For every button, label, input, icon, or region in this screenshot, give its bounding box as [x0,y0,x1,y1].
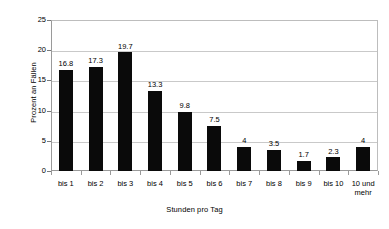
y-tick-label: 0 [22,167,46,175]
x-tick-label: bis 9 [289,180,319,189]
bar-slot: 19.7 [110,20,140,171]
bar [89,67,103,171]
x-axis-title: Stunden pro Tag [0,205,389,214]
y-tick-label: 25 [22,16,46,24]
x-tick-label: bis 10 [319,180,349,189]
x-tick-label: 10 und mehr [348,180,378,197]
bar-value-label: 7.5 [209,116,219,124]
bar-slot: 13.3 [140,20,170,171]
x-tick-mark [170,171,171,175]
bar-slot: 4 [348,20,378,171]
bar-value-label: 17.3 [88,57,103,65]
bar-slot: 3.5 [259,20,289,171]
bar [178,112,192,171]
bars-layer: 16.817.319.713.39.87.543.51.72.34 [51,20,378,171]
bar-value-label: 1.7 [298,151,308,159]
y-tick-label: 5 [22,137,46,145]
bar [118,52,132,171]
x-tick-label: bis 7 [229,180,259,189]
bar-slot: 7.5 [200,20,230,171]
bar [356,147,370,171]
bar-value-label: 19.7 [118,43,133,51]
bar-value-label: 4 [361,137,365,145]
x-tick-mark [259,171,260,175]
bar [148,91,162,171]
bar-value-label: 13.3 [148,81,163,89]
bar-slot: 9.8 [170,20,200,171]
y-axis-title: Prozent an Fällen [29,13,38,173]
bar-value-label: 4 [242,137,246,145]
bar-value-label: 16.8 [59,60,74,68]
bar-value-label: 9.8 [180,102,190,110]
y-tick-label: 10 [22,107,46,115]
x-tick-label: bis 4 [140,180,170,189]
x-tick-mark [110,171,111,175]
bar-slot: 1.7 [289,20,319,171]
bar [59,70,73,171]
bar-value-label: 3.5 [269,140,279,148]
x-tick-mark [51,171,52,175]
x-tick-label: bis 2 [81,180,111,189]
y-tick-label: 15 [22,76,46,84]
bar [297,161,311,171]
x-tick-label: bis 6 [200,180,230,189]
x-tick-mark [200,171,201,175]
x-tick-mark [81,171,82,175]
bar-slot: 17.3 [81,20,111,171]
x-tick-label: bis 1 [51,180,81,189]
x-tick-mark [319,171,320,175]
bar [326,157,340,171]
bar-value-label: 2.3 [328,148,338,156]
y-tick-label: 20 [22,46,46,54]
x-tick-label: bis 3 [110,180,140,189]
x-tick-mark [289,171,290,175]
x-tick-mark [348,171,349,175]
bar-chart: Prozent an Fällen 0510152025 16.817.319.… [0,0,389,229]
bar-slot: 4 [229,20,259,171]
x-tick-label: bis 5 [170,180,200,189]
bar [267,150,281,171]
x-tick-label: bis 8 [259,180,289,189]
x-tick-mark [140,171,141,175]
x-tick-mark [378,171,379,175]
bar-slot: 2.3 [319,20,349,171]
bar [237,147,251,171]
bar-slot: 16.8 [51,20,81,171]
bar [207,126,221,171]
x-tick-mark [229,171,230,175]
